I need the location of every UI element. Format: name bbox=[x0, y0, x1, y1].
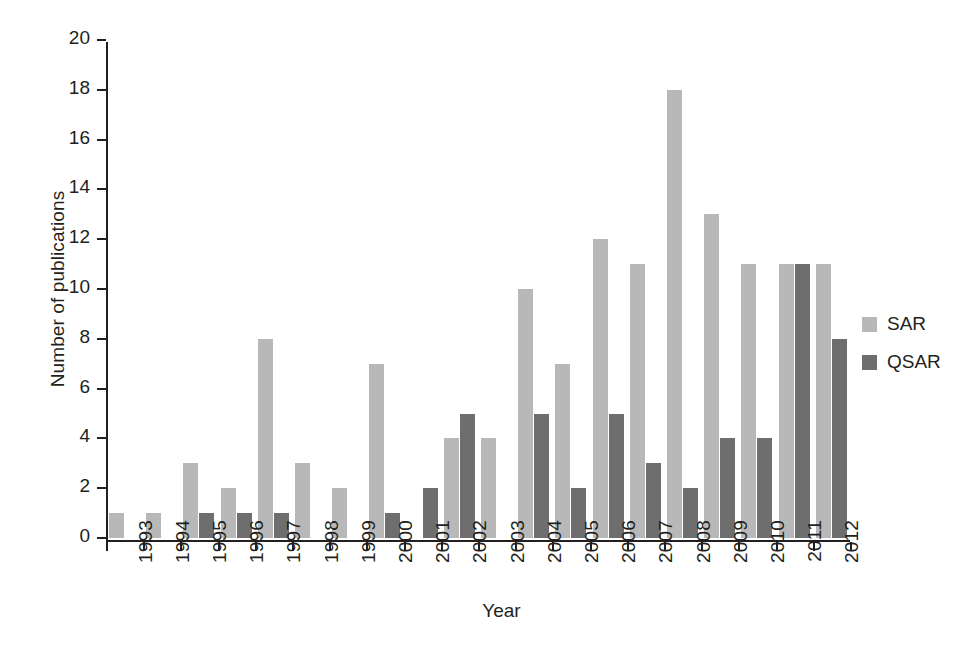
y-tick-2: 2 bbox=[97, 487, 106, 489]
bar-chart-figure: Number of publications 02468101214161820… bbox=[0, 0, 965, 650]
y-tick-18: 18 bbox=[97, 89, 106, 91]
bar-group-1994 bbox=[145, 40, 182, 538]
x-tick-label-1998: 1998 bbox=[321, 520, 343, 594]
bar-sar-2008[interactable] bbox=[667, 90, 682, 538]
bar-sar-2005[interactable] bbox=[555, 364, 570, 538]
x-tick-label-1994: 1994 bbox=[172, 520, 194, 594]
bar-sar-2007[interactable] bbox=[630, 264, 645, 538]
y-tick-label-6: 6 bbox=[79, 376, 90, 398]
x-tick-label-1996: 1996 bbox=[246, 520, 268, 594]
bar-group-2011 bbox=[778, 40, 815, 538]
bar-sar-2012[interactable] bbox=[816, 264, 831, 538]
y-tick-label-4: 4 bbox=[79, 425, 90, 447]
x-tick-label-1999: 1999 bbox=[358, 520, 380, 594]
legend-item-sar[interactable]: SAR bbox=[862, 305, 962, 343]
bar-group-1993 bbox=[108, 40, 145, 538]
y-tick-14: 14 bbox=[97, 188, 106, 190]
bar-group-1997 bbox=[257, 40, 294, 538]
y-tick-20: 20 bbox=[97, 39, 106, 41]
legend-swatch-qsar-icon bbox=[862, 355, 877, 370]
x-tick-label-2009: 2009 bbox=[730, 520, 752, 594]
plot-area: 02468101214161820 1993199419951996199719… bbox=[106, 42, 850, 540]
chart-legend: SAR QSAR bbox=[862, 305, 962, 381]
x-axis-title: Year bbox=[0, 600, 965, 622]
legend-item-qsar[interactable]: QSAR bbox=[862, 343, 962, 381]
y-tick-0: 0 bbox=[97, 537, 106, 539]
x-tick-label-2003: 2003 bbox=[507, 520, 529, 594]
y-tick-8: 8 bbox=[97, 338, 106, 340]
x-tick-label-2010: 2010 bbox=[767, 520, 789, 594]
bar-group-2012 bbox=[815, 40, 852, 538]
x-tick-label-2007: 2007 bbox=[655, 520, 677, 594]
legend-label-sar: SAR bbox=[887, 313, 926, 335]
bar-group-1999 bbox=[331, 40, 368, 538]
x-tick-label-2001: 2001 bbox=[432, 520, 454, 594]
x-tick-label-2008: 2008 bbox=[693, 520, 715, 594]
y-tick-label-18: 18 bbox=[69, 77, 90, 99]
y-tick-label-0: 0 bbox=[79, 525, 90, 547]
x-tick-label-1997: 1997 bbox=[283, 520, 305, 594]
bar-sar-2000[interactable] bbox=[369, 364, 384, 538]
y-tick-6: 6 bbox=[97, 388, 106, 390]
bar-group-2008 bbox=[666, 40, 703, 538]
x-tick-label-2002: 2002 bbox=[469, 520, 491, 594]
bar-group-2004 bbox=[517, 40, 554, 538]
bar-group-2007 bbox=[629, 40, 666, 538]
y-tick-label-10: 10 bbox=[69, 276, 90, 298]
bar-sar-1993[interactable] bbox=[109, 513, 124, 538]
bar-sar-2006[interactable] bbox=[593, 239, 608, 538]
bar-group-2005 bbox=[554, 40, 591, 538]
y-tick-label-14: 14 bbox=[69, 176, 90, 198]
bar-group-2010 bbox=[740, 40, 777, 538]
bar-sar-2011[interactable] bbox=[779, 264, 794, 538]
y-axis-title: Number of publications bbox=[47, 139, 69, 439]
bar-sar-2009[interactable] bbox=[704, 214, 719, 538]
x-tick-label-2011: 2011 bbox=[804, 520, 826, 594]
x-tick-label-1995: 1995 bbox=[209, 520, 231, 594]
bar-group-1998 bbox=[294, 40, 331, 538]
x-tick-label-2004: 2004 bbox=[544, 520, 566, 594]
x-tick-label-2006: 2006 bbox=[618, 520, 640, 594]
y-tick-label-16: 16 bbox=[69, 127, 90, 149]
y-tick-4: 4 bbox=[97, 437, 106, 439]
bar-sar-1997[interactable] bbox=[258, 339, 273, 538]
y-tick-label-8: 8 bbox=[79, 326, 90, 348]
legend-label-qsar: QSAR bbox=[887, 351, 941, 373]
bar-sar-2004[interactable] bbox=[518, 289, 533, 538]
x-tick-label-2012: 2012 bbox=[841, 520, 863, 594]
y-tick-label-2: 2 bbox=[79, 475, 90, 497]
y-tick-label-12: 12 bbox=[69, 226, 90, 248]
bar-group-2002 bbox=[443, 40, 480, 538]
y-tick-12: 12 bbox=[97, 238, 106, 240]
bar-group-1996 bbox=[220, 40, 257, 538]
legend-swatch-sar-icon bbox=[862, 317, 877, 332]
bar-group-2009 bbox=[703, 40, 740, 538]
bar-group-2000 bbox=[368, 40, 405, 538]
x-tick-label-1993: 1993 bbox=[135, 520, 157, 594]
y-tick-label-20: 20 bbox=[69, 27, 90, 49]
x-tick-label-2000: 2000 bbox=[395, 520, 417, 594]
bar-group-1995 bbox=[182, 40, 219, 538]
x-tick-label-2005: 2005 bbox=[581, 520, 603, 594]
bar-qsar-2011[interactable] bbox=[795, 264, 810, 538]
bar-group-2003 bbox=[480, 40, 517, 538]
bar-group-2006 bbox=[592, 40, 629, 538]
y-tick-16: 16 bbox=[97, 139, 106, 141]
bar-sar-2010[interactable] bbox=[741, 264, 756, 538]
bar-group-2001 bbox=[406, 40, 443, 538]
bar-qsar-2012[interactable] bbox=[832, 339, 847, 538]
x-tick-0 bbox=[106, 542, 108, 551]
x-axis-title-text: Year bbox=[482, 600, 520, 621]
y-tick-10: 10 bbox=[97, 288, 106, 290]
